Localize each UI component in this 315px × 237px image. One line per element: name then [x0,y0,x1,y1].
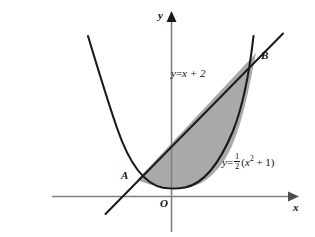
point-label-b: B [261,50,268,61]
parabola-eq-fraction: 12 [234,152,240,171]
figure-canvas: y x O A B y=x + 2 y=12(x2 + 1) [0,0,315,237]
origin-label: O [160,198,168,209]
line-curve [106,34,284,215]
point-label-a: A [121,170,128,181]
line-equation-label: y=x + 2 [171,68,205,79]
graph-svg [0,0,315,237]
fraction-denominator: 2 [234,162,240,171]
y-axis-label: y [158,10,163,21]
parabola-eq-equals: = [227,156,233,168]
line-eq-rhs: x + 2 [182,67,205,79]
parabola-eq-tail: + 1) [254,156,275,168]
y-axis-arrowhead [167,11,177,22]
x-axis-label: x [293,202,299,213]
x-axis-arrowhead [288,192,299,202]
parabola-equation-label: y=12(x2 + 1) [222,152,275,171]
